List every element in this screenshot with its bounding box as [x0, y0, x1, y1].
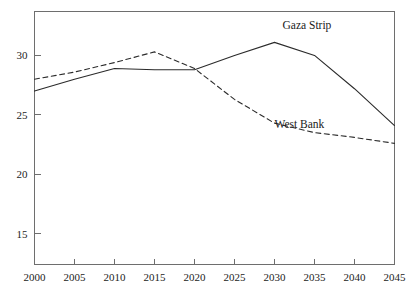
series-label-gaza-strip: Gaza Strip — [283, 19, 332, 32]
data-series-group — [35, 42, 395, 143]
x-tick-label: 2020 — [184, 271, 207, 283]
plot-border — [35, 12, 395, 265]
x-tick-label: 2040 — [344, 271, 367, 283]
x-tick-label: 2045 — [384, 271, 407, 283]
chart-container: 15202530 2000200520102015202020252030203… — [0, 0, 417, 298]
x-tick-label: 2025 — [224, 271, 247, 283]
y-axis-ticks — [35, 55, 41, 233]
x-tick-label: 2030 — [264, 271, 287, 283]
plot-frame — [35, 12, 395, 265]
x-tick-label: 2005 — [64, 271, 87, 283]
x-tick-label: 2015 — [144, 271, 167, 283]
x-axis-tick-labels: 2000200520102015202020252030203520402045 — [24, 271, 407, 283]
y-tick-label: 25 — [17, 109, 29, 121]
line-chart: 15202530 2000200520102015202020252030203… — [0, 0, 417, 298]
y-tick-label: 20 — [17, 168, 29, 180]
series-label-west-bank: West Bank — [275, 118, 325, 130]
x-tick-label: 2010 — [104, 271, 127, 283]
series-annotation-labels: Gaza StripWest Bank — [275, 19, 332, 130]
y-axis-tick-labels: 15202530 — [17, 49, 29, 239]
x-tick-label: 2000 — [24, 271, 47, 283]
x-tick-label: 2035 — [304, 271, 327, 283]
y-tick-label: 15 — [17, 228, 29, 240]
y-tick-label: 30 — [17, 49, 29, 61]
x-axis-ticks — [35, 259, 395, 265]
series-line-west-bank — [35, 52, 395, 143]
